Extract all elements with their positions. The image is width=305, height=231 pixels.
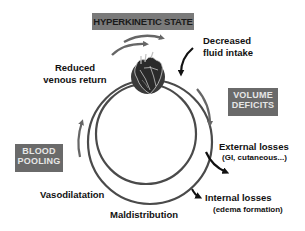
inner-ring (96, 84, 196, 184)
internal-losses-arrow (192, 189, 199, 197)
decreased-fluid-intake-line1: Decreased (203, 35, 253, 47)
heart-illustration-icon (131, 52, 165, 94)
fluid-intake-arrow (181, 48, 193, 73)
internal-losses-label: Internal losses (205, 192, 272, 204)
volume-deficits-box: VOLUME DEFICITS (228, 88, 278, 116)
hyperkinetic-state-box: HYPERKINETIC STATE (92, 13, 194, 30)
blood-pooling-line1: BLOOD (15, 146, 63, 156)
internal-losses-detail: (edema formation) (213, 204, 283, 216)
vasodilatation-label: Vasodilatation (40, 189, 104, 201)
external-losses-detail: (GI, cutaneous...) (222, 152, 287, 164)
decreased-fluid-intake-line2: fluid intake (203, 47, 253, 59)
reduced-venous-return-line1: Reduced (36, 62, 114, 74)
volume-deficits-line2: DEFICITS (228, 100, 278, 110)
decreased-fluid-intake-label: Decreased fluid intake (203, 35, 253, 59)
blood-pooling-arrow (78, 122, 82, 157)
hyperkinetic-arrows (112, 36, 162, 55)
maldistribution-label: Maldistribution (110, 209, 178, 221)
reduced-venous-return-line2: venous return (36, 74, 114, 86)
outer-ring (88, 80, 212, 204)
reduced-venous-return-label: Reduced venous return (36, 62, 114, 86)
blood-pooling-box: BLOOD POOLING (15, 144, 63, 172)
blood-pooling-line2: POOLING (15, 156, 63, 166)
volume-deficits-line1: VOLUME (228, 90, 278, 100)
diagram-canvas: HYPERKINETIC STATE VOLUME DEFICITS BLOOD… (0, 0, 305, 231)
